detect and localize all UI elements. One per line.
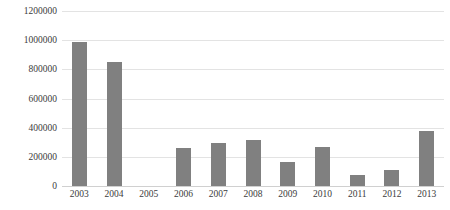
bar-slot — [62, 11, 97, 186]
bar — [419, 131, 434, 186]
bar-slot — [131, 11, 166, 186]
bar-chart: 020000040000060000080000010000001200000 … — [0, 0, 450, 210]
x-axis-tick-label: 2005 — [131, 189, 166, 199]
y-axis-tick-label: 800000 — [0, 64, 57, 74]
bar-series — [62, 11, 444, 186]
x-axis-tick-label: 2013 — [409, 189, 444, 199]
bar — [350, 175, 365, 186]
bar-slot — [305, 11, 340, 186]
bar — [384, 170, 399, 186]
y-axis-tick-label: 1200000 — [0, 6, 57, 16]
bar — [107, 62, 122, 186]
x-axis-tick-label: 2012 — [375, 189, 410, 199]
bar — [246, 140, 261, 186]
bar-slot — [409, 11, 444, 186]
x-axis-tick-label: 2004 — [97, 189, 132, 199]
x-axis-tick-label: 2009 — [270, 189, 305, 199]
y-axis-tick-label: 200000 — [0, 152, 57, 162]
x-axis-tick-label: 2003 — [62, 189, 97, 199]
bar-slot — [270, 11, 305, 186]
bar — [176, 148, 191, 186]
plot-area — [62, 11, 444, 186]
x-axis-tick-label: 2006 — [166, 189, 201, 199]
x-axis: 2003200420052006200720082009201020112012… — [62, 189, 444, 199]
y-axis-tick-label: 0 — [0, 181, 57, 191]
bar — [315, 147, 330, 186]
y-axis-tick-label: 1000000 — [0, 35, 57, 45]
bar-slot — [201, 11, 236, 186]
bar-slot — [166, 11, 201, 186]
y-axis-tick-label: 400000 — [0, 123, 57, 133]
x-axis-tick-label: 2011 — [340, 189, 375, 199]
gridline — [62, 186, 444, 187]
x-axis-tick-label: 2008 — [236, 189, 271, 199]
y-axis-tick-label: 600000 — [0, 94, 57, 104]
x-axis-tick-label: 2007 — [201, 189, 236, 199]
bar-slot — [236, 11, 271, 186]
bar-slot — [340, 11, 375, 186]
bar — [280, 162, 295, 186]
x-axis-tick-label: 2010 — [305, 189, 340, 199]
bar — [72, 42, 87, 186]
bar-slot — [375, 11, 410, 186]
bar-slot — [97, 11, 132, 186]
bar — [211, 143, 226, 186]
